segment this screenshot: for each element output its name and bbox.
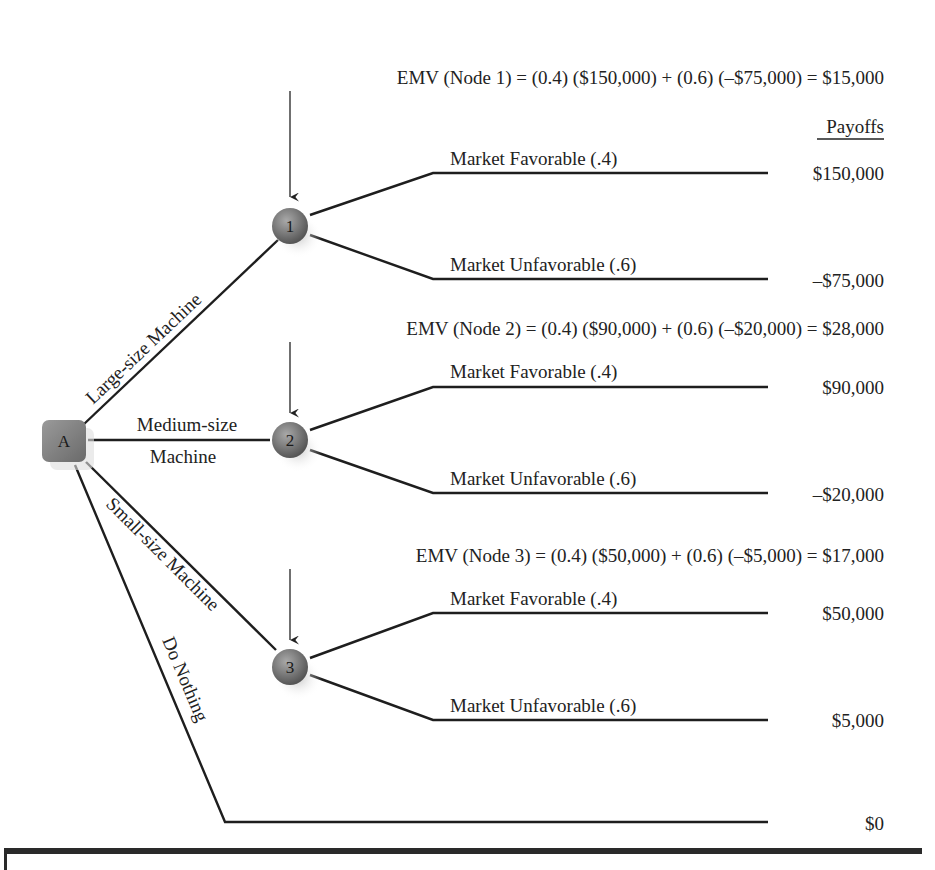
emv-node1-text: EMV (Node 1) = (0.4) ($150,000) + (0.6) … <box>397 67 884 89</box>
svg-text:2: 2 <box>286 431 295 450</box>
node2-favorable-label: Market Favorable (.4) <box>450 361 617 383</box>
payoff-node3-favorable: $50,000 <box>822 603 884 624</box>
payoff-node1-unfavorable: –$75,000 <box>812 270 884 291</box>
payoff-node2-favorable: $90,000 <box>822 377 884 398</box>
node1-favorable-label: Market Favorable (.4) <box>450 148 617 170</box>
alt-small-label: Small-size Machine <box>102 493 224 615</box>
emv-node3-text: EMV (Node 3) = (0.4) ($50,000) + (0.6) (… <box>416 545 884 567</box>
svg-text:A: A <box>58 432 71 451</box>
node3-favorable-label: Market Favorable (.4) <box>450 588 617 610</box>
frame-border-top <box>4 848 922 854</box>
emv-node2-text: EMV (Node 2) = (0.4) ($90,000) + (0.6) (… <box>406 318 884 340</box>
node3-favorable-line <box>310 613 768 658</box>
alt-medium-label-line2: Machine <box>150 446 216 467</box>
decision-tree: A 1 2 3 EMV (Node 1) = (0.4) ($150,000) … <box>0 0 935 870</box>
payoff-node3-unfavorable: $5,000 <box>832 710 884 731</box>
node1-favorable-line <box>310 173 768 215</box>
branch-large-line <box>83 240 278 425</box>
payoff-do-nothing: $0 <box>865 813 884 834</box>
payoff-node2-unfavorable: –$20,000 <box>812 484 884 505</box>
alt-do-nothing-label: Do Nothing <box>158 633 213 725</box>
decision-node-a: A <box>42 420 94 470</box>
node2-favorable-line <box>310 387 768 430</box>
payoff-node1-favorable: $150,000 <box>813 163 884 184</box>
node3-unfavorable-label: Market Unfavorable (.6) <box>450 695 636 717</box>
svg-text:3: 3 <box>286 658 295 677</box>
node2-unfavorable-label: Market Unfavorable (.6) <box>450 468 636 490</box>
alt-medium-label-line1: Medium-size <box>137 414 237 435</box>
node1-unfavorable-label: Market Unfavorable (.6) <box>450 254 636 276</box>
chance-node-1: 1 <box>272 208 322 258</box>
payoffs-header: Payoffs <box>826 116 884 137</box>
alt-large-label: Large-size Machine <box>81 289 205 408</box>
svg-text:1: 1 <box>286 217 295 236</box>
frame-border-left <box>4 848 7 870</box>
